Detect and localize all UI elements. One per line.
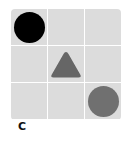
grid-cell-r1c1 <box>11 9 47 45</box>
grid-cell-r2c1 <box>11 46 47 82</box>
grid-cell-r2c3 <box>85 46 121 82</box>
grid-cell-r1c3 <box>85 9 121 45</box>
figure-label: C <box>18 120 26 133</box>
shape-grid <box>11 9 121 120</box>
grid-cell-r2c2 <box>48 46 84 82</box>
gray-triangle-icon <box>50 50 82 79</box>
grid-cell-r1c2 <box>48 9 84 45</box>
gray-circle-icon <box>88 86 119 117</box>
grid-cell-r3c3 <box>85 83 121 119</box>
grid-cell-r3c2 <box>48 83 84 119</box>
black-circle-icon <box>14 12 45 43</box>
grid-cell-r3c1 <box>11 83 47 119</box>
